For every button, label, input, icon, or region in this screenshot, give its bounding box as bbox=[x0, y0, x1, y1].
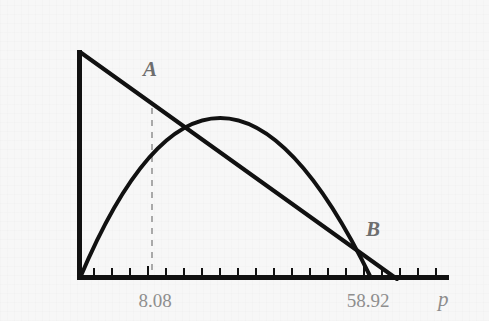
cost-line-series bbox=[80, 52, 397, 279]
x-tick-label-8-08: 8.08 bbox=[110, 290, 200, 312]
x-tick-label-58-92: 58.92 bbox=[320, 290, 416, 312]
point-label-a: A bbox=[143, 57, 157, 82]
chart-figure: dollars p 8.08 58.92 A B bbox=[0, 0, 489, 321]
point-label-b: B bbox=[366, 217, 380, 242]
plot-area bbox=[0, 0, 489, 321]
x-axis-label: p bbox=[438, 287, 449, 312]
revenue-curve-series bbox=[80, 118, 371, 278]
